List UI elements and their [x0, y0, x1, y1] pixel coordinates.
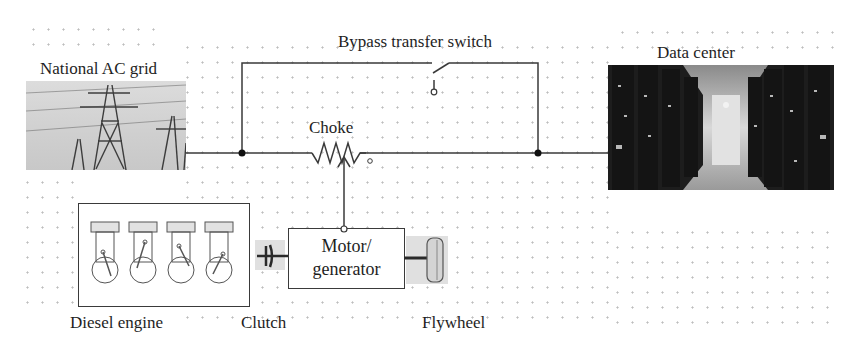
motor-terminal-icon: [341, 226, 347, 232]
circuit-wires: [0, 0, 858, 360]
clutch-icon: [255, 240, 288, 270]
flywheel-icon: [404, 236, 448, 284]
switch-contact-icon: [431, 89, 437, 95]
choke-terminal-icon: [368, 159, 373, 164]
junction-left-icon: [239, 150, 246, 157]
choke-icon: [312, 143, 366, 163]
switch-blade-icon: [433, 63, 449, 73]
junction-right-icon: [535, 150, 542, 157]
